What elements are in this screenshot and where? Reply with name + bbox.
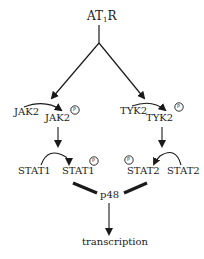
stat2-active-label: STAT2 — [127, 166, 160, 176]
jak2-active-label: JAK2 — [45, 113, 70, 123]
stat1-inactive-label: STAT1 — [18, 166, 51, 176]
receptor-suffix: R — [107, 9, 116, 23]
tyk2-phospho-label: P — [177, 104, 180, 109]
receptor-label: AT1R — [87, 10, 117, 24]
signaling-pathway-diagram: AT1R JAK2 JAK2 P TYK2 TYK2 P STAT1 STAT1… — [0, 0, 204, 259]
pathway-connectors — [0, 0, 204, 259]
arrow-to-jak2 — [52, 43, 99, 98]
stat2-inactive-label: STAT2 — [167, 166, 200, 176]
stat1-phospho-label: P — [92, 158, 95, 163]
jak2-inactive-label: JAK2 — [14, 107, 39, 117]
stat1-active-label: STAT1 — [62, 166, 95, 176]
stat2-phospho-label: P — [127, 157, 130, 162]
stat1-phosphorylation-arrow — [41, 153, 69, 165]
stat2-phosphorylation-arrow — [154, 153, 181, 165]
p48-label: p48 — [100, 190, 119, 200]
complex-bar-left — [73, 183, 97, 193]
jak2-phospho-label: P — [73, 107, 76, 112]
tyk2-inactive-label: TYK2 — [120, 106, 147, 116]
tyk2-active-label: TYK2 — [146, 113, 173, 123]
receptor-main: AT — [87, 9, 103, 23]
transcription-label: transcription — [82, 237, 148, 247]
complex-bar-right — [124, 183, 147, 193]
arrow-to-tyk2 — [99, 43, 144, 98]
